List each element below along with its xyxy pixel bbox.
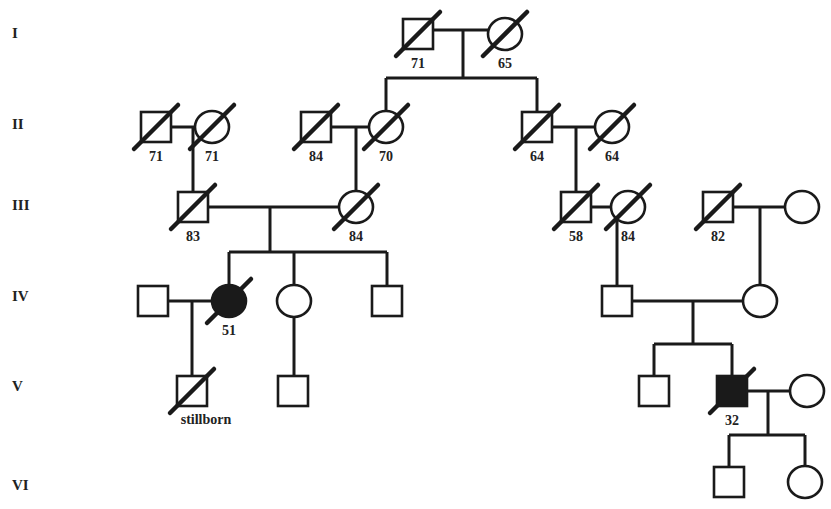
female-circle <box>788 466 822 498</box>
individual-label: 71 <box>149 149 163 164</box>
female-circle <box>785 191 819 223</box>
individual-label: 71 <box>205 149 219 164</box>
individual-label: 84 <box>309 149 323 164</box>
individual-v-4: 32 <box>710 369 754 428</box>
individual-ii-2: 71 <box>190 105 234 164</box>
generation-label: I <box>12 25 18 41</box>
generation-label: IV <box>12 288 29 304</box>
male-square <box>714 467 744 497</box>
male-square <box>372 286 402 316</box>
relationship-lines <box>153 30 807 467</box>
individual-label: 71 <box>411 56 425 71</box>
individual-iv-3 <box>277 285 311 317</box>
individual-iv-5 <box>602 286 632 316</box>
male-square <box>138 286 168 316</box>
individual-iii-2: 84 <box>334 185 378 244</box>
male-square <box>639 376 669 406</box>
individual-iii-5: 82 <box>696 185 740 244</box>
individual-iv-1 <box>138 286 168 316</box>
individual-iii-3: 58 <box>554 185 598 244</box>
individual-label: 58 <box>569 229 583 244</box>
individual-iii-6 <box>785 191 819 223</box>
generation-label: VI <box>12 477 29 493</box>
individual-label: stillborn <box>181 412 232 427</box>
individual-iii-4: 84 <box>606 185 650 244</box>
individual-label: 51 <box>222 323 236 338</box>
individual-iv-6 <box>743 285 777 317</box>
individual-i-1: 71 <box>396 12 440 71</box>
individual-ii-6: 64 <box>590 105 634 164</box>
individual-label: 84 <box>621 229 635 244</box>
individual-label: 32 <box>725 413 739 428</box>
individual-i-2: 65 <box>483 12 527 71</box>
individual-iv-2: 51 <box>207 279 251 338</box>
individual-iv-4 <box>372 286 402 316</box>
male-square <box>278 376 308 406</box>
individuals: 7165717184706464838458848251stillborn32 <box>134 12 824 498</box>
individual-ii-4: 70 <box>364 105 408 164</box>
individual-label: 65 <box>498 56 512 71</box>
male-square <box>602 286 632 316</box>
female-circle <box>277 285 311 317</box>
individual-label: 70 <box>379 149 393 164</box>
individual-label: 64 <box>530 149 544 164</box>
female-circle <box>790 375 824 407</box>
individual-vi-1 <box>714 467 744 497</box>
individual-ii-5: 64 <box>515 105 559 164</box>
female-circle <box>743 285 777 317</box>
individual-v-1: stillborn <box>170 369 231 427</box>
individual-ii-1: 71 <box>134 105 178 164</box>
individual-v-3 <box>639 376 669 406</box>
individual-iii-1: 83 <box>171 185 215 244</box>
individual-vi-2 <box>788 466 822 498</box>
individual-label: 82 <box>711 229 725 244</box>
individual-ii-3: 84 <box>294 105 338 164</box>
generation-label: III <box>12 197 30 213</box>
generation-label: II <box>12 116 24 132</box>
individual-label: 83 <box>186 229 200 244</box>
individual-v-2 <box>278 376 308 406</box>
generation-labels: IIIIIIIVVVI <box>12 25 30 493</box>
individual-v-5 <box>790 375 824 407</box>
individual-label: 84 <box>349 229 363 244</box>
individual-label: 64 <box>605 149 619 164</box>
generation-label: V <box>12 378 23 394</box>
pedigree-chart: IIIIIIIVVVI 7165717184706464838458848251… <box>0 0 831 509</box>
